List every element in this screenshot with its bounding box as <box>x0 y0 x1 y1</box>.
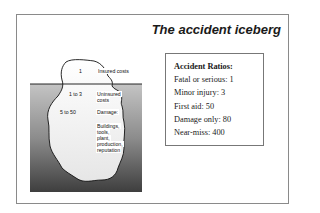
ratio-row-first-aid: First aid: 50 <box>174 100 263 113</box>
ratio-row-near-miss: Near-miss: 400 <box>174 126 263 139</box>
accident-ratios-box: Accident Ratios: Fatal or serious: 1 Min… <box>165 53 264 146</box>
iceberg-shape <box>48 60 125 182</box>
damage-label: Damage: <box>96 109 119 115</box>
iceberg-diagram: 1 Insured costs 1 to 3 Uninsured costs 5… <box>28 56 146 196</box>
slide-title: The accident iceberg <box>136 22 281 37</box>
tip-ratio: 1 <box>79 68 82 74</box>
ratio-row-minor-injury: Minor injury: 3 <box>174 86 263 99</box>
insured-costs-label: Insured costs <box>97 68 130 74</box>
ratio-row-fatal: Fatal or serious: 1 <box>174 73 263 86</box>
iceberg-graphic <box>28 56 146 196</box>
ratios-heading: Accident Ratios: <box>174 60 263 73</box>
ratio-row-damage-only: Damage only: 80 <box>174 113 263 126</box>
uninsured-label-line2: costs <box>96 97 110 103</box>
damage-item: reputation <box>96 147 121 153</box>
uninsured-ratio: 1 to 3 <box>69 91 82 97</box>
damage-ratio: 5 to 50 <box>60 109 76 115</box>
